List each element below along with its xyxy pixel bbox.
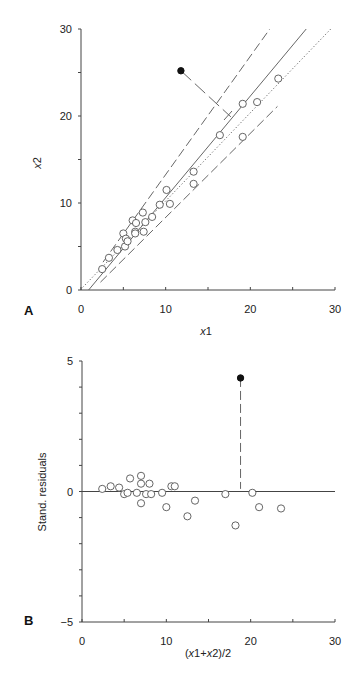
outlier-point <box>237 375 243 381</box>
data-point <box>133 489 140 496</box>
panel-a-letter: A <box>24 303 34 318</box>
data-point <box>137 500 144 507</box>
data-point <box>277 505 284 512</box>
outlier-point <box>178 68 184 74</box>
data-point <box>159 489 166 496</box>
panel-a-y-axis-label: x2 <box>31 157 43 170</box>
data-point <box>148 491 155 498</box>
data-point <box>249 489 256 496</box>
data-point <box>239 100 246 107</box>
panel-b-letter: B <box>24 613 33 628</box>
data-point <box>142 219 149 226</box>
data-point <box>149 213 156 220</box>
x-tick-label: 30 <box>329 635 341 647</box>
data-point <box>140 228 147 235</box>
data-point <box>163 504 170 511</box>
data-point <box>190 180 197 187</box>
y-tick-label: 0 <box>66 284 72 296</box>
y-tick-label: −5 <box>60 616 73 628</box>
data-point <box>107 483 114 490</box>
data-point <box>190 168 197 175</box>
data-point <box>216 132 223 139</box>
data-point <box>232 522 239 529</box>
x-tick-label: 30 <box>329 303 341 315</box>
data-point <box>99 485 106 492</box>
y-tick-label: 30 <box>60 23 72 35</box>
y-tick-label: 10 <box>60 197 72 209</box>
data-point <box>184 513 191 520</box>
x-tick-label: 20 <box>245 635 257 647</box>
data-point <box>275 75 282 82</box>
data-point <box>222 491 229 498</box>
data-point <box>132 230 139 237</box>
data-point <box>146 480 153 487</box>
data-point <box>137 480 144 487</box>
x1-plus: 1+ <box>194 647 207 659</box>
panel-b-y-axis-label: Stand. residuals <box>36 452 48 531</box>
residuals-label-text: Stand. residuals <box>36 452 48 531</box>
figure: 01020300102030 0102030−505 A B x1 x2 Sta… <box>0 0 362 674</box>
data-point <box>163 186 170 193</box>
data-point <box>116 484 123 491</box>
data-point <box>256 504 263 511</box>
x2-div: 2)/2 <box>212 647 231 659</box>
x-tick-label: 0 <box>78 303 84 315</box>
data-point <box>156 201 163 208</box>
data-point <box>239 133 246 140</box>
data-point <box>191 497 198 504</box>
data-point <box>132 219 139 226</box>
upper-limit <box>103 29 270 262</box>
x-tick-label: 0 <box>79 635 85 647</box>
data-point <box>126 475 133 482</box>
outlier-connector <box>181 71 231 117</box>
x-tick-label: 10 <box>160 303 172 315</box>
panel-a-plot: 01020300102030 <box>60 23 341 315</box>
y-tick-label: 0 <box>67 486 73 498</box>
data-point <box>114 246 121 253</box>
data-point <box>254 98 261 105</box>
data-point <box>124 489 131 496</box>
x-tick-label: 20 <box>244 303 256 315</box>
x-tick-label: 10 <box>160 635 172 647</box>
y-tick-label: 20 <box>60 110 72 122</box>
data-point <box>124 238 131 245</box>
data-point <box>105 254 112 261</box>
data-point <box>137 472 144 479</box>
data-point <box>99 266 106 273</box>
data-point <box>139 209 146 216</box>
data-point <box>171 483 178 490</box>
panel-b-x-axis-label: (x1+x2)/2 <box>185 647 231 659</box>
panel-b-plot: 0102030−505 <box>60 355 341 647</box>
y-tick-label: 5 <box>67 355 73 367</box>
lower-limit <box>100 106 277 282</box>
x2-sub: 2 <box>31 157 43 163</box>
panel-a-x-axis-label: x1 <box>199 325 212 337</box>
connector-foot-tick <box>224 111 232 120</box>
x1-sub: 1 <box>206 325 212 337</box>
data-point <box>166 200 173 207</box>
